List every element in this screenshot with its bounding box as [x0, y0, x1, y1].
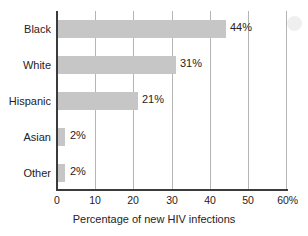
x-tick-50: 50 — [242, 194, 254, 207]
plot-area: 44% 31% 21% 2% 2% — [57, 11, 287, 190]
bar-value-hispanic: 21% — [142, 90, 164, 108]
category-label-other: Other — [0, 164, 51, 182]
category-label-hispanic: Hispanic — [0, 92, 51, 110]
x-axis-title: Percentage of new HIV infections — [0, 213, 308, 225]
bar-white — [57, 56, 176, 74]
gridline-50 — [248, 11, 249, 190]
category-label-asian: Asian — [0, 128, 51, 146]
y-axis-line — [56, 11, 58, 191]
gridline-60 — [286, 11, 287, 190]
scan-artifact-blob — [287, 16, 302, 31]
x-tick-20: 20 — [127, 194, 139, 207]
bar-black — [57, 20, 226, 38]
x-tick-60: 60% — [277, 194, 298, 207]
bar-other — [57, 164, 65, 182]
x-axis-line — [56, 189, 288, 191]
bar-hispanic — [57, 92, 138, 110]
x-tick-40: 40 — [204, 194, 216, 207]
bar-value-asian: 2% — [70, 126, 86, 144]
category-label-black: Black — [0, 20, 51, 38]
bar-value-white: 31% — [180, 54, 202, 72]
x-tick-0: 0 — [54, 194, 60, 207]
category-label-white: White — [0, 56, 51, 74]
bar-chart-figure: 44% 31% 21% 2% 2% Black White Hispanic A… — [0, 0, 308, 236]
bar-value-other: 2% — [70, 162, 86, 180]
x-tick-10: 10 — [89, 194, 101, 207]
bar-asian — [57, 128, 65, 146]
bar-value-black: 44% — [230, 18, 252, 36]
x-tick-30: 30 — [166, 194, 178, 207]
